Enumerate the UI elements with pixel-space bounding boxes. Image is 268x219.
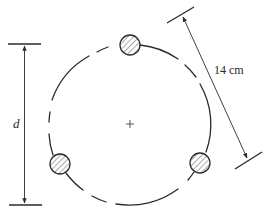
bolt-top xyxy=(120,35,140,55)
bolt-lower-left xyxy=(50,154,70,174)
spacing-dimension xyxy=(167,7,262,169)
diameter-label: d xyxy=(13,117,20,130)
center-mark-icon xyxy=(126,120,134,128)
diagram-svg xyxy=(0,0,268,219)
bolt-spacing-label: 14 cm xyxy=(214,64,244,76)
bolt-circle-figure: d 14 cm xyxy=(0,0,268,219)
bolt-lower-right xyxy=(190,153,210,173)
